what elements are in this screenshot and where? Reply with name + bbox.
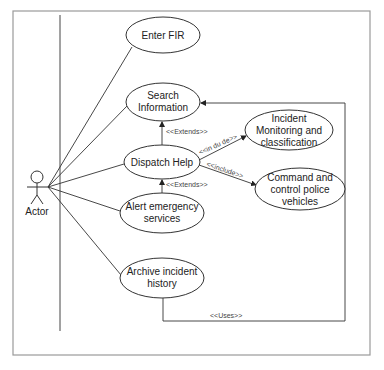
use-case-label-line-2: Monitoring and	[256, 125, 322, 136]
uses-label: <<Uses>>	[210, 312, 242, 319]
use-case-diagram: Actor <<Extends>> <<Extends>> <<in du de…	[0, 0, 384, 370]
use-case-enter-fir[interactable]: Enter FIR	[126, 17, 200, 53]
use-case-label-line-2: history	[147, 278, 176, 289]
use-case-incident-monitoring[interactable]: Incident Monitoring and classification	[245, 110, 333, 150]
assoc-alert-emergency	[48, 187, 120, 211]
use-case-label: Dispatch Help	[131, 157, 194, 168]
use-case-label-line-2: services	[144, 213, 181, 224]
use-case-label-line-1: Search	[147, 90, 179, 101]
use-case-alert-emergency[interactable]: Alert emergency services	[120, 193, 204, 233]
use-case-label-line-1: Archive incident	[127, 266, 198, 277]
assoc-archive-incident	[48, 187, 121, 275]
use-case-label-line-1: Alert emergency	[126, 201, 199, 212]
actor[interactable]: Actor	[25, 171, 49, 217]
use-case-label-line-3: vehicles	[282, 196, 318, 207]
use-case-label-line-3: classification	[261, 137, 318, 148]
use-case-search-information[interactable]: Search Information	[126, 83, 200, 121]
actor-associations	[48, 47, 132, 275]
extends-label-alert: <<Extends>>	[166, 181, 208, 188]
actor-label: Actor	[25, 206, 49, 217]
use-case-archive-incident[interactable]: Archive incident history	[120, 258, 204, 298]
assoc-enter-fir	[48, 47, 132, 187]
actor-right-leg	[37, 195, 43, 204]
extends-label-search: <<Extends>>	[166, 128, 208, 135]
use-case-label-line-2: Information	[138, 102, 188, 113]
include-label-command: <<include>>	[206, 160, 245, 179]
use-case-label-line-1: Command and	[267, 172, 333, 183]
include-label-monitoring: <<in du de>>	[198, 133, 239, 156]
use-case-label-line-2: control police	[271, 184, 330, 195]
actor-head-icon	[31, 171, 43, 183]
use-case-command-control[interactable]: Command and control police vehicles	[255, 168, 345, 210]
actor-left-leg	[31, 195, 37, 204]
use-case-label: Enter FIR	[142, 30, 185, 41]
use-case-label-line-1: Incident	[271, 113, 306, 124]
use-case-dispatch-help[interactable]: Dispatch Help	[124, 145, 200, 179]
